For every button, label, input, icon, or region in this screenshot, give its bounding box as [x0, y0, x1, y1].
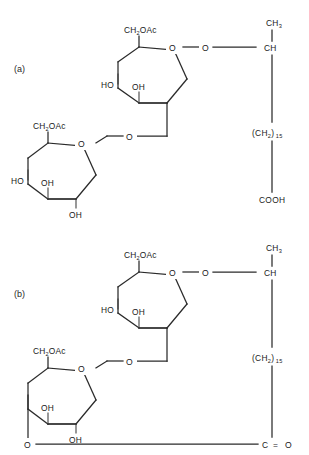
panel-b-lower-ring: O CH2OAc O OH OH	[21, 346, 96, 451]
panel-a: (a) O CH2OAc	[11, 18, 285, 220]
upper-mid-hydroxyl-b: OH	[132, 307, 145, 317]
panel-b: (b) O CH2OAc HO OH	[14, 243, 292, 451]
upper-left-hydroxyl-b: HO	[101, 305, 114, 315]
panel-a-upper-ring: O CH2OAc HO OH O	[101, 25, 256, 136]
chain-terminus-equals-b: =	[273, 440, 278, 450]
lower-c6-label-b: CH2OAc	[33, 346, 66, 357]
chain-methyl-a: CH3	[266, 18, 282, 29]
panel-a-label: (a)	[14, 64, 25, 74]
chemical-structure-figure: (a) O CH2OAc	[0, 0, 309, 455]
aglycone-oxygen-b: O	[202, 268, 209, 278]
panel-b-glycosidic-bridge: O	[96, 355, 167, 368]
chain-terminus-carbon-b: C	[262, 440, 268, 450]
panel-a-lower-ring: O CH2OAc HO OH OH	[11, 121, 96, 220]
upper-ring-oxygen-b: O	[169, 268, 176, 278]
structure-drawing-canvas: (a) O CH2OAc	[0, 0, 309, 455]
chain-methylene-a: (CH2)15	[252, 128, 283, 139]
chain-methine-b: CH	[264, 268, 277, 278]
glycosidic-oxygen-b: O	[126, 357, 133, 367]
ester-oxygen-b: O	[24, 440, 31, 450]
panel-a-chain: CH3 CH (CH2)15 COOH	[252, 18, 285, 205]
lower-c6-label-a: CH2OAc	[33, 121, 66, 132]
glycosidic-oxygen-a: O	[126, 132, 133, 142]
upper-c6-label-a: CH2OAc	[124, 25, 157, 36]
lower-ring-oxygen-b: O	[78, 364, 85, 374]
aglycone-oxygen-a: O	[202, 43, 209, 53]
lower-bottom-hydroxyl-a: OH	[69, 210, 82, 220]
chain-methine-a: CH	[264, 43, 277, 53]
lower-ring-oxygen-a: O	[78, 139, 85, 149]
upper-c6-label-b: CH2OAc	[124, 250, 157, 261]
lower-mid-hydroxyl-b: OH	[41, 403, 54, 413]
chain-methyl-b: CH3	[266, 243, 282, 254]
chain-terminus-a: COOH	[259, 195, 285, 205]
panel-a-glycosidic-bridge: O	[96, 130, 167, 143]
lower-left-hydroxyl-a: HO	[11, 176, 24, 186]
chain-methylene-b: (CH2)15	[252, 353, 283, 364]
upper-ring-oxygen-a: O	[169, 43, 176, 53]
panel-b-label: (b)	[14, 289, 25, 299]
panel-b-upper-ring: O CH2OAc HO OH O	[101, 250, 256, 361]
chain-terminus-oxygen-b: O	[285, 440, 292, 450]
lower-mid-hydroxyl-a: OH	[41, 178, 54, 188]
upper-left-hydroxyl-a: HO	[101, 80, 114, 90]
upper-mid-hydroxyl-a: OH	[132, 82, 145, 92]
